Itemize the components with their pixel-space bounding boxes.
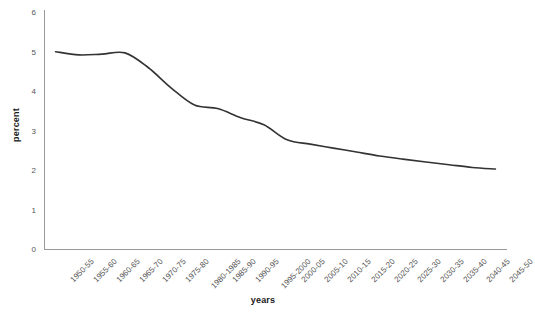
x-axis-title: years bbox=[0, 295, 526, 305]
y-axis-tick-label: 2 bbox=[14, 166, 36, 175]
data-line bbox=[56, 52, 496, 169]
x-axis-tick-label: 2005-10 bbox=[323, 257, 350, 284]
y-axis-tick-label: 0 bbox=[14, 245, 36, 254]
x-axis-tick-label: 1965-70 bbox=[138, 257, 165, 284]
x-axis-tick-label: 2040-45 bbox=[485, 257, 512, 284]
x-axis-tick-label: 2015-20 bbox=[369, 257, 396, 284]
x-axis-tick-label: 1990-95 bbox=[253, 257, 280, 284]
x-axis-tick-label: 2020-25 bbox=[392, 257, 419, 284]
x-axis-tick-label: 1975-80 bbox=[184, 257, 211, 284]
y-axis-tick-label: 1 bbox=[14, 206, 36, 215]
x-axis-tick-label: 2010-15 bbox=[346, 257, 373, 284]
x-axis-tick-label: 2045-50 bbox=[508, 257, 535, 284]
y-axis-tick-label: 6 bbox=[14, 8, 36, 17]
x-axis-tick-label: 1950-55 bbox=[68, 257, 95, 284]
plot-area: 0123456 1950-551955-601960-651965-701970… bbox=[44, 8, 507, 250]
plot-svg bbox=[44, 8, 507, 250]
x-axis-tick-label: 1955-60 bbox=[91, 257, 118, 284]
data-series-group bbox=[56, 52, 496, 169]
y-axis-tick-label: 5 bbox=[14, 48, 36, 57]
x-axis-tick-label: 2035-40 bbox=[462, 257, 489, 284]
axes-group bbox=[44, 10, 507, 250]
y-axis-title: percent bbox=[11, 95, 21, 155]
x-axis-tick-label: 2025-30 bbox=[415, 257, 442, 284]
y-axis-tick-label: 3 bbox=[14, 127, 36, 136]
x-axis-tick-label: 2030-35 bbox=[439, 257, 466, 284]
x-axis-tick-label: 1970-75 bbox=[161, 257, 188, 284]
x-axis-tick-label: 1960-65 bbox=[114, 257, 141, 284]
y-axis-tick-label: 4 bbox=[14, 87, 36, 96]
